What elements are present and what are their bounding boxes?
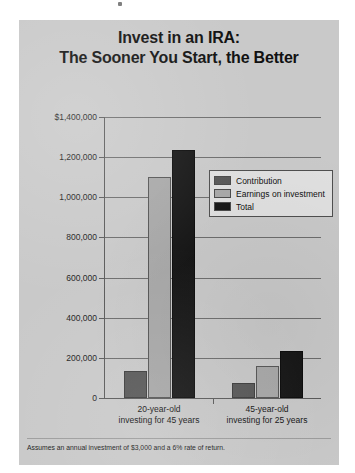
y-axis-tick-mark xyxy=(99,318,105,319)
y-axis-tick-mark xyxy=(99,197,105,198)
chart-title-line1: Invest in an IRA: xyxy=(118,29,240,46)
bar-earnings-on-investment-group-1 xyxy=(148,177,171,398)
x-axis-category-label-2: 45-year-oldinvesting for 25 years xyxy=(207,404,327,426)
bar-earnings-on-investment-group-2 xyxy=(256,366,279,398)
legend-label: Contribution xyxy=(236,176,282,186)
gridline xyxy=(105,157,321,158)
x-axis-category-label-line: 45-year-old xyxy=(207,404,327,415)
legend-label: Total xyxy=(236,202,254,212)
y-axis-tick-label: $1,400,000 xyxy=(19,112,97,122)
bar-total-group-2 xyxy=(280,351,303,398)
chart-legend: ContributionEarnings on investmentTotal xyxy=(209,170,333,217)
scan-artifact-speck xyxy=(118,2,122,6)
legend-swatch-icon xyxy=(214,176,231,185)
plot-area xyxy=(105,117,321,398)
y-axis-tick-mark xyxy=(99,237,105,238)
page-canvas: Invest in an IRA: The Sooner You Start, … xyxy=(0,0,355,473)
footnote-divider xyxy=(27,438,331,439)
x-axis-category-label-line: 20-year-old xyxy=(99,404,219,415)
legend-item-total: Total xyxy=(214,200,328,213)
legend-item-contribution: Contribution xyxy=(214,174,328,187)
y-axis-line xyxy=(104,117,105,398)
legend-swatch-icon xyxy=(214,202,231,211)
x-axis-group-separator xyxy=(213,398,214,404)
gridline xyxy=(105,318,321,319)
x-axis-category-label-line: investing for 25 years xyxy=(207,415,327,426)
chart-title: Invest in an IRA: The Sooner You Start, … xyxy=(19,28,339,68)
y-axis-tick-mark xyxy=(99,278,105,279)
gridline xyxy=(105,278,321,279)
bar-contribution-group-1 xyxy=(124,371,147,398)
y-axis-tick-label: 800,000 xyxy=(19,232,97,242)
x-axis-category-label-1: 20-year-oldinvesting for 45 years xyxy=(99,404,219,426)
y-axis-tick-mark xyxy=(99,157,105,158)
y-axis-tick-label: 1,000,000 xyxy=(19,192,97,202)
y-axis-tick-label: 600,000 xyxy=(19,273,97,283)
y-axis-tick-label: 400,000 xyxy=(19,313,97,323)
chart-footnote: Assumes an annual investment of $3,000 a… xyxy=(27,443,333,452)
x-axis-category-label-line: investing for 45 years xyxy=(99,415,219,426)
legend-item-earnings-on-investment: Earnings on investment xyxy=(214,187,328,200)
bar-total-group-1 xyxy=(172,150,195,398)
y-axis-tick-label: 1,200,000 xyxy=(19,152,97,162)
chart-panel: Invest in an IRA: The Sooner You Start, … xyxy=(19,20,339,465)
y-axis-tick-labels: 0200,000400,000600,000800,0001,000,0001,… xyxy=(19,117,97,398)
bar-contribution-group-2 xyxy=(232,383,255,398)
y-axis-tick-label: 200,000 xyxy=(19,353,97,363)
chart-title-line2: The Sooner You Start, the Better xyxy=(19,48,339,68)
y-axis-tick-mark xyxy=(99,117,105,118)
gridline xyxy=(105,237,321,238)
legend-label: Earnings on investment xyxy=(236,189,325,199)
y-axis-tick-label: 0 xyxy=(19,393,97,403)
gridline xyxy=(105,117,321,118)
legend-swatch-icon xyxy=(214,189,231,198)
y-axis-tick-mark xyxy=(99,358,105,359)
